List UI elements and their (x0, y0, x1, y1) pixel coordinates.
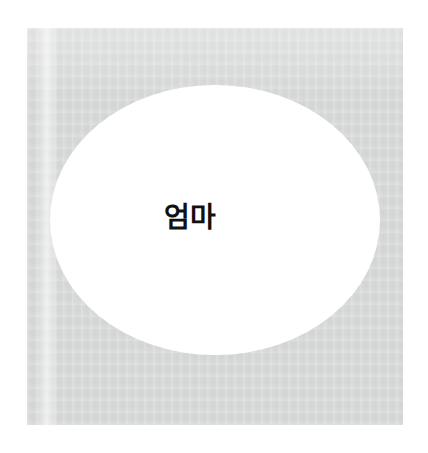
scanned-page: 엄마 (0, 0, 428, 453)
ellipse-label: 엄마 (140, 204, 240, 232)
